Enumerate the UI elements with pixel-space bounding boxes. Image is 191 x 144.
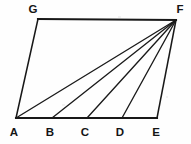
vertex-label-D: D: [116, 126, 124, 138]
cevian-fan: [16, 20, 176, 118]
cevian-FC: [87, 20, 176, 118]
vertex-label-G: G: [29, 3, 38, 15]
edge-FE: [157, 20, 176, 118]
cevian-FB: [52, 20, 176, 118]
cevian-FA: [16, 20, 176, 118]
vertex-label-B: B: [46, 126, 54, 138]
vertex-label-A: A: [10, 126, 18, 138]
geometry-figure: G F A B C D E: [0, 0, 191, 144]
edge-AG: [16, 19, 38, 118]
edge-GF: [38, 19, 176, 20]
vertex-label-E: E: [152, 126, 160, 138]
vertex-label-C: C: [81, 126, 89, 138]
cevian-FD: [122, 20, 176, 118]
figure-canvas: G F A B C D E: [0, 0, 191, 144]
vertex-label-F: F: [176, 3, 183, 15]
